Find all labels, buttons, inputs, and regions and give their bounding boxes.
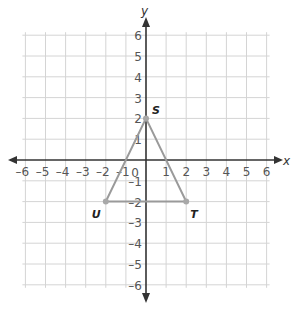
x-axis-label: x xyxy=(282,154,291,168)
y-tick-label: 4 xyxy=(134,71,142,85)
x-tick-label: –5 xyxy=(36,165,50,179)
x-axis-right-arrow-icon xyxy=(274,156,283,164)
x-tick-label: –3 xyxy=(76,165,90,179)
y-tick-label: –1 xyxy=(128,175,142,189)
y-axis-down-arrow-icon xyxy=(142,293,150,303)
y-tick-label: 3 xyxy=(134,92,142,106)
x-tick-label: 6 xyxy=(263,165,271,179)
vertex-u-point xyxy=(103,199,109,205)
y-tick-label: 5 xyxy=(134,50,142,64)
y-tick-label: 6 xyxy=(134,29,142,43)
x-tick-labels: –6–5–4–3–2–1123456 xyxy=(16,165,271,179)
vertex-u-label: U xyxy=(92,208,101,221)
y-tick-labels: 654321–1–2–3–4–5–6 xyxy=(128,29,142,293)
x-tick-label: –2 xyxy=(96,165,110,179)
y-tick-label: –5 xyxy=(128,258,142,272)
axes: x y 0 xyxy=(8,4,291,303)
coordinate-plane: x y 0 –6–5–4–3–2–1123456 654321–1–2–3–4–… xyxy=(0,0,303,313)
x-tick-label: –6 xyxy=(16,165,30,179)
x-axis-left-arrow-icon xyxy=(8,156,17,164)
vertex-t-point xyxy=(183,199,189,205)
x-tick-label: –4 xyxy=(56,165,70,179)
y-axis-up-arrow-icon xyxy=(142,17,150,27)
y-tick-label: –3 xyxy=(128,216,142,230)
x-tick-label: 2 xyxy=(182,165,190,179)
x-tick-label: 3 xyxy=(202,165,210,179)
vertex-s-label: S xyxy=(152,104,160,117)
y-axis-label: y xyxy=(140,4,149,18)
y-tick-label: 2 xyxy=(134,112,142,126)
vertex-t-label: T xyxy=(190,208,199,221)
y-tick-label: –4 xyxy=(128,237,142,251)
y-tick-label: –6 xyxy=(128,279,142,293)
x-tick-label: 4 xyxy=(223,165,231,179)
vertex-s-point xyxy=(143,115,149,121)
x-tick-label: 5 xyxy=(243,165,251,179)
